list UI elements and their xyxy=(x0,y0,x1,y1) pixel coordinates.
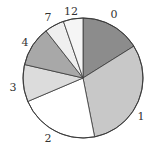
pie-chart: 01234712 xyxy=(0,0,152,148)
slice-label-3: 3 xyxy=(10,81,17,94)
slice-label-4: 4 xyxy=(22,36,29,49)
slice-label-1: 1 xyxy=(138,110,145,123)
slice-label-2: 2 xyxy=(45,132,52,145)
pie-slices xyxy=(23,18,143,138)
slice-label-12: 12 xyxy=(64,5,78,18)
slice-label-7: 7 xyxy=(45,11,52,24)
slice-label-0: 0 xyxy=(111,8,118,21)
